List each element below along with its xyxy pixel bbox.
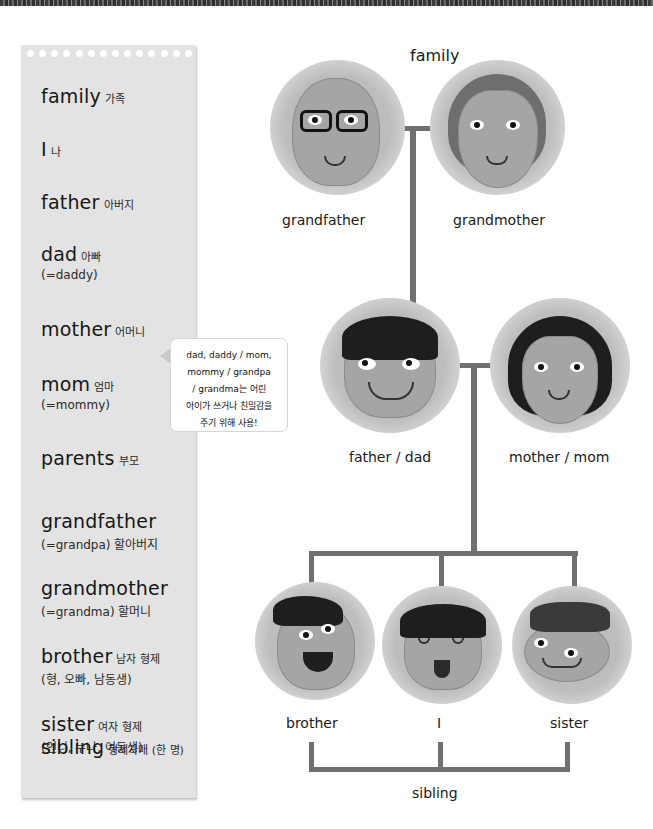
top-border-strip [0,0,653,6]
vocab-word: grandmother [41,577,168,599]
vocab-meaning: 어머니 [115,326,145,339]
father-illustration [320,298,460,433]
vocab-meaning: 엄마 [94,381,114,394]
mother-illustration [490,298,630,433]
tree-title: family [410,46,459,65]
label-grandfather: grandfather [282,212,365,228]
vocab-word: family [41,85,101,107]
vocab-item-mom: mom엄마 (=mommy) [41,373,114,412]
me-illustration [382,586,502,704]
vocab-word: dad [41,243,77,265]
vocab-item-brother: brother남자 형제 (형, 오빠, 남동생) [41,645,160,687]
tooltip-line: mommy / grandpa [175,364,283,381]
label-sister: sister [550,715,588,731]
vocab-item-family: family가족 [41,85,125,107]
vocab-item-sibling: sibling형제자매 (한 명) [41,736,184,758]
vocab-alt: (=mommy) [41,398,114,412]
vocab-alt: (=daddy) [41,268,101,282]
grandmother-illustration [430,60,565,195]
label-me: I [437,715,441,731]
vocab-word: sibling [41,736,104,758]
grandparents-to-father-line [410,126,416,322]
vocab-meaning: 아버지 [104,199,134,212]
usage-tooltip: dad, daddy / mom, mommy / grandpa / gran… [170,338,288,432]
tooltip-line: dad, daddy / mom, [175,347,283,364]
vocab-word: father [41,191,100,213]
vocab-word: mom [41,373,90,395]
label-brother: brother [286,715,338,731]
vocab-item-parents: parents부모 [41,447,139,469]
brother-illustration [255,582,375,700]
vocab-word: sister [41,713,94,735]
label-mother: mother / mom [509,449,609,465]
spiral-holes [27,50,192,58]
tooltip-arrow [160,349,170,363]
tooltip-line: 주기 위해 사용! [175,415,283,432]
vocab-meaning: 나 [51,146,61,159]
tooltip-line: / grandma는 어린 [175,381,283,398]
vocab-item-father: father아버지 [41,191,134,213]
vocab-word: mother [41,318,111,340]
vocab-meaning: 형제자매 (한 명) [108,744,184,757]
vocab-alt: (=grandpa) 할아버지 [41,535,158,552]
vocab-item-mother: mother어머니 [41,318,145,340]
vocab-meaning: 가족 [105,93,125,106]
glasses-icon [300,110,332,132]
vocab-item-grandmother: grandmother (=grandma) 할머니 [41,577,168,619]
sibling-bracket-base [309,767,570,772]
parents-to-children-line [471,363,477,555]
vocab-meaning: 아빠 [81,251,101,264]
sister-illustration [512,586,632,704]
vocab-alt: (=grandma) 할머니 [41,602,168,619]
vocab-word: I [41,138,47,160]
tooltip-line: 아이가 쓰거나 친밀감을 [175,398,283,415]
vocab-meaning: 부모 [119,455,139,468]
vocab-alt: (형, 오빠, 남동생) [41,670,160,687]
label-sibling: sibling [412,785,458,801]
grandfather-illustration [270,60,405,195]
vocab-meaning: 남자 형제 [116,653,160,666]
vocab-word: parents [41,447,115,469]
vocab-item-grandfather: grandfather (=grandpa) 할아버지 [41,510,158,552]
vocab-word: brother [41,645,112,667]
vocab-word: grandfather [41,510,156,532]
label-grandmother: grandmother [453,212,545,228]
vocab-item-dad: dad아빠 (=daddy) [41,243,101,282]
vocab-item-i: I나 [41,138,61,160]
label-father: father / dad [349,449,431,465]
vocab-meaning: 여자 형제 [98,721,142,734]
